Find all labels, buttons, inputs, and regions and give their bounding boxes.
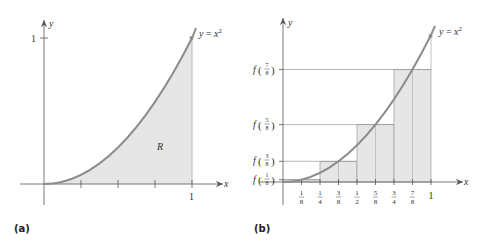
- svg-text:8: 8: [337, 198, 341, 206]
- svg-text:): ): [271, 174, 275, 187]
- panel-b: 1 8 1 4 3 8 1 2 5 8: [253, 17, 469, 234]
- svg-text:7: 7: [266, 62, 269, 68]
- svg-text:f: f: [253, 174, 257, 185]
- svg-text:1: 1: [355, 189, 359, 197]
- svg-text:(: (: [258, 174, 262, 187]
- svg-text:1: 1: [266, 172, 269, 178]
- y-ticks-b: [279, 70, 283, 180]
- y-label-f-3-8: f ( 3 8 ): [253, 153, 275, 168]
- curve-label: y = x2: [198, 27, 223, 39]
- svg-text:8: 8: [300, 198, 304, 206]
- svg-text:7: 7: [411, 189, 415, 197]
- x-tick-label: 7 8: [410, 189, 415, 206]
- svg-text:1: 1: [318, 189, 322, 197]
- svg-text:8: 8: [266, 161, 269, 167]
- x-tick-labels-b: 1 8 1 4 3 8 1 2 5 8: [299, 189, 434, 206]
- svg-text:8: 8: [266, 70, 269, 76]
- svg-text:(: (: [258, 155, 262, 168]
- y-tick-label-1: 1: [31, 33, 36, 44]
- y-axis-label: y: [48, 18, 54, 29]
- x-tick-label-1: 1: [189, 191, 194, 202]
- y-label-f-7-8: f ( 7 8 ): [253, 62, 275, 77]
- svg-text:5: 5: [266, 117, 269, 123]
- x-tick-label-one: 1: [429, 190, 434, 201]
- svg-text:f: f: [253, 119, 257, 130]
- svg-text:f: f: [253, 155, 257, 166]
- x-tick-label: 1 4: [318, 189, 323, 206]
- svg-text:3: 3: [337, 189, 341, 197]
- svg-text:): ): [271, 155, 275, 168]
- x-tick-label: 5 8: [373, 189, 378, 206]
- svg-text:3: 3: [266, 153, 269, 159]
- svg-text:8: 8: [266, 125, 269, 131]
- figure: y x 1 1 R y = x2 (a): [0, 0, 481, 249]
- y-labels-b: f ( 1 8 ) f ( 3 8 ) f ( 5 8 ): [253, 62, 275, 187]
- svg-text:): ): [271, 119, 275, 132]
- svg-text:8: 8: [374, 198, 378, 206]
- panel-label-b: (b): [254, 223, 270, 234]
- curve-endpoint: [190, 36, 194, 40]
- region-r-fill: [44, 38, 192, 184]
- x-tick-label: 1 8: [299, 189, 304, 206]
- svg-text:f: f: [253, 64, 257, 75]
- y-label-f-1-8: f ( 1 8 ): [253, 172, 275, 187]
- svg-text:4: 4: [318, 198, 322, 206]
- svg-text:): ): [271, 64, 275, 77]
- svg-text:3: 3: [392, 189, 396, 197]
- svg-text:1: 1: [300, 189, 304, 197]
- x-axis-label: x: [223, 178, 229, 189]
- svg-text:8: 8: [266, 180, 269, 186]
- y-axis-label-b: y: [287, 17, 293, 28]
- curve-endpoint-b: [429, 34, 433, 38]
- x-axis-label-b: x: [463, 176, 469, 187]
- panel-label-a: (a): [14, 223, 30, 234]
- curve-label-b: y = x2: [438, 25, 463, 37]
- riemann-rectangles: [283, 70, 431, 183]
- y-label-f-5-8: f ( 5 8 ): [253, 117, 275, 132]
- svg-text:4: 4: [392, 198, 396, 206]
- x-tick-label: 3 8: [336, 189, 341, 206]
- x-tick-label: 1 2: [355, 189, 360, 206]
- svg-text:(: (: [258, 119, 262, 132]
- svg-text:2: 2: [355, 198, 359, 206]
- svg-text:5: 5: [374, 189, 378, 197]
- panel-a: y x 1 1 R y = x2 (a): [14, 18, 229, 234]
- region-label: R: [156, 141, 163, 152]
- svg-text:8: 8: [411, 198, 415, 206]
- svg-text:(: (: [258, 64, 262, 77]
- x-tick-label: 3 4: [392, 189, 397, 206]
